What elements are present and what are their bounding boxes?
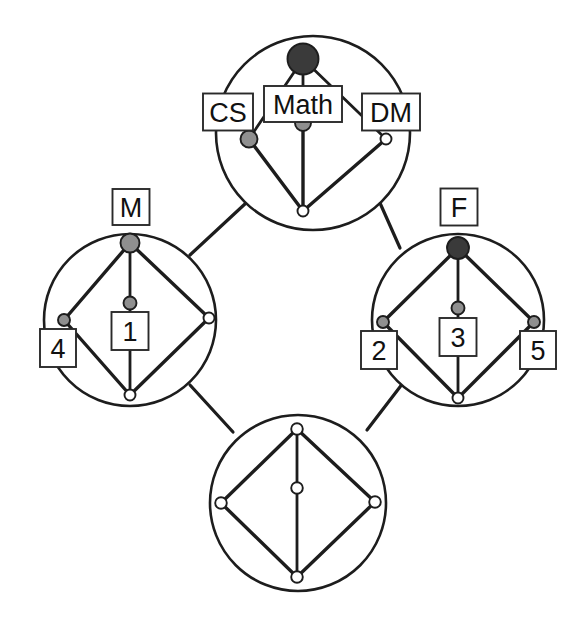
bridge-top-left [190, 203, 246, 255]
f-vertex[interactable] [447, 237, 469, 259]
label-text-f-vertex: F [451, 193, 468, 223]
bridge-left-bottom [190, 385, 233, 432]
m-vertex[interactable] [121, 234, 140, 253]
center-vertex-bottom[interactable] [291, 482, 303, 494]
left-vertex-bottom[interactable] [215, 497, 227, 509]
label-text-vertex-4: 4 [50, 334, 65, 364]
bottom-vertex-bottom[interactable] [291, 571, 303, 583]
bottom-vertex-top[interactable] [298, 206, 309, 217]
label-text-vertex-2: 2 [371, 336, 386, 366]
top-vertex-bottom[interactable] [291, 423, 303, 435]
bridge-top-right [380, 203, 400, 248]
vertex-2[interactable] [377, 316, 389, 328]
graph-diagram: MathCSDMM41F235 [0, 0, 588, 626]
vertex-5[interactable] [528, 316, 540, 328]
vertex-3[interactable] [452, 302, 465, 315]
label-text-dm-vertex: DM [370, 98, 412, 128]
math-vertex[interactable] [288, 44, 319, 75]
label-text-vertex-5: 5 [530, 336, 545, 366]
bottom-vertex-left[interactable] [125, 390, 136, 401]
vertex-4[interactable] [58, 314, 70, 326]
label-text-m-vertex: M [120, 193, 143, 223]
right-vertex-left[interactable] [204, 313, 215, 324]
label-text-vertex-1: 1 [122, 317, 137, 347]
right-vertex-bottom[interactable] [369, 496, 381, 508]
graph-canvas: MathCSDMM41F235 [0, 0, 588, 626]
bottom-vertex-right[interactable] [453, 393, 464, 404]
label-text-cs-vertex: CS [209, 98, 247, 128]
vertex-1[interactable] [124, 297, 137, 310]
label-text-vertex-3: 3 [450, 323, 465, 353]
label-text-math-vertex: Math [273, 90, 333, 120]
cs-vertex[interactable] [241, 131, 258, 148]
bridge-right-bottom [367, 383, 403, 430]
dm-vertex[interactable] [381, 134, 392, 145]
